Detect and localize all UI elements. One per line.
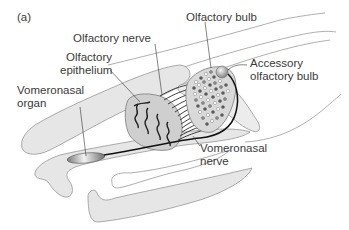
vomeronasal-organ-label-line2: organ [17, 97, 84, 110]
olfactory-bulb-label: Olfactory bulb [186, 11, 257, 24]
vomeronasal-nerve-label: Vomeronasal nerve [200, 142, 267, 168]
olfactory-epithelium-label: Olfactory epithelium [60, 51, 112, 77]
panel-label: (a) [17, 11, 31, 24]
accessory-olfactory-bulb-label: Accessory olfactory bulb [250, 57, 318, 83]
accessory-olfactory-bulb-label-line2: olfactory bulb [250, 70, 318, 83]
vomeronasal-nerve-label-line2: nerve [200, 155, 267, 168]
olfactory-bulb-shape [186, 67, 236, 133]
vomeronasal-organ-label: Vomeronasal organ [17, 84, 84, 110]
olfactory-nerve-label: Olfactory nerve [73, 32, 151, 45]
olfactory-epithelium-label-line2: epithelium [60, 64, 112, 77]
olfactory-epithelium-label-line1: Olfactory [60, 51, 112, 64]
accessory-olfactory-bulb-label-line1: Accessory [250, 57, 318, 70]
vomeronasal-organ-label-line1: Vomeronasal [17, 84, 84, 97]
olfactory-anatomy-diagram [0, 0, 349, 230]
vomeronasal-nerve-label-line1: Vomeronasal [200, 142, 267, 155]
accessory-olfactory-bulb-shape [216, 66, 228, 78]
